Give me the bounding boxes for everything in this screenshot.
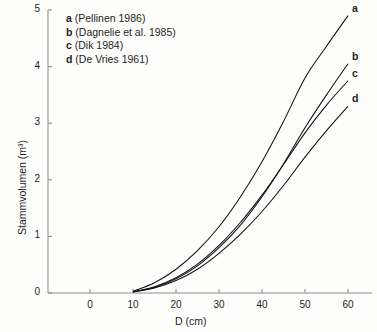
- legend-row: b (Dagnelie et al. 1985): [66, 26, 176, 40]
- y-tick-label: 2: [22, 173, 40, 184]
- y-tick-label: 0: [22, 286, 40, 297]
- legend-reference: (Dik 1984): [72, 39, 123, 51]
- curve-b: [133, 64, 348, 292]
- chart-figure: a (Pellinen 1986)b (Dagnelie et al. 1985…: [0, 0, 377, 332]
- x-tick-label: 10: [123, 299, 143, 310]
- curve-end-label-a: a: [352, 2, 358, 14]
- curve-c: [133, 81, 348, 292]
- legend-reference: (De Vries 1961): [72, 53, 148, 65]
- y-tick-label: 4: [22, 60, 40, 71]
- y-tick-label: 5: [22, 3, 40, 14]
- y-tick-label: 3: [22, 116, 40, 127]
- curve-end-label-d: d: [352, 92, 358, 104]
- x-tick-label: 20: [166, 299, 186, 310]
- plot-area: [0, 0, 377, 332]
- x-tick-label: 0: [80, 299, 100, 310]
- x-axis-title: D (cm): [175, 315, 207, 327]
- chart-legend: a (Pellinen 1986)b (Dagnelie et al. 1985…: [66, 12, 176, 66]
- x-tick-label: 40: [252, 299, 272, 310]
- x-tick-label: 50: [295, 299, 315, 310]
- x-tick-label: 30: [209, 299, 229, 310]
- x-tick-label: 60: [338, 299, 358, 310]
- curve-end-label-b: b: [352, 50, 358, 62]
- legend-row: c (Dik 1984): [66, 39, 176, 53]
- legend-row: a (Pellinen 1986): [66, 12, 176, 26]
- curve-end-label-c: c: [352, 67, 358, 79]
- curve-d: [133, 106, 348, 292]
- legend-row: d (De Vries 1961): [66, 53, 176, 67]
- legend-reference: (Dagnelie et al. 1985): [72, 26, 175, 38]
- y-tick-label: 1: [22, 229, 40, 240]
- y-axis-title: Stammvolumen (m³): [16, 140, 28, 235]
- legend-reference: (Pellinen 1986): [72, 12, 146, 24]
